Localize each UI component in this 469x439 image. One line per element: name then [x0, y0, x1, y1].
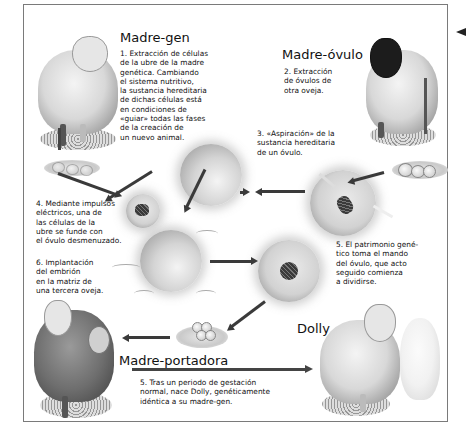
- sheep-leg: [62, 396, 68, 418]
- needle-icon: [424, 78, 427, 134]
- madre-gen-title: Madre-gen: [120, 30, 190, 45]
- dividing-cell: [258, 240, 320, 302]
- needle-icon: [58, 128, 61, 150]
- fused-cell: [140, 230, 202, 292]
- step-birth-text: 5. Tras un periodo de gestación normal, …: [140, 378, 320, 406]
- dolly-title: Dolly: [297, 321, 330, 336]
- womb-window-icon: [88, 326, 110, 354]
- nucleus-icon: [334, 194, 355, 217]
- ghost-sheep: [400, 318, 440, 400]
- cell-icon: [80, 165, 93, 176]
- sheep-head: [44, 300, 72, 336]
- step-4-text: 4. Mediante impulsos eléctricos, una de …: [36, 199, 146, 245]
- sheep-head: [72, 36, 108, 72]
- enucleated-ovum-cell: [310, 170, 376, 236]
- egg-icon: [423, 165, 436, 178]
- cell-icon: [66, 164, 79, 175]
- step-3-text: 3. «Aspiración» de la sustancia heredita…: [257, 129, 367, 157]
- pointer-arrow-icon: [456, 28, 466, 36]
- electric-impulse-icon: [134, 290, 154, 297]
- arrow-icon: [240, 191, 244, 194]
- step-5-text: 5. El patrimonio gené- tico toma el mand…: [336, 240, 446, 286]
- embryo-cell-icon: [205, 330, 216, 341]
- sheep-head: [364, 304, 396, 342]
- birth-arrow-icon: [132, 368, 306, 371]
- sheep-leg: [378, 122, 384, 138]
- step-2-text: 2. Extracción de óvulos de otra oveja.: [284, 67, 364, 95]
- step-6-text: 6. Implantación del embrión en la matriz…: [36, 258, 136, 295]
- electric-impulse-icon: [196, 290, 216, 297]
- arrow-icon: [210, 260, 252, 263]
- nucleus-icon: [280, 262, 298, 280]
- electric-impulse-icon: [196, 230, 218, 237]
- sheep-leg: [80, 124, 86, 142]
- arrow-icon: [128, 336, 170, 339]
- sheep-leg: [360, 394, 366, 412]
- arrow-icon: [261, 190, 305, 193]
- madre-portadora-title: Madre-portadora: [119, 353, 228, 368]
- sheep-head: [370, 38, 402, 78]
- madre-ovulo-title: Madre-óvulo: [282, 47, 363, 62]
- step-1-text: 1. Extracción de células de la ubre de l…: [120, 49, 240, 142]
